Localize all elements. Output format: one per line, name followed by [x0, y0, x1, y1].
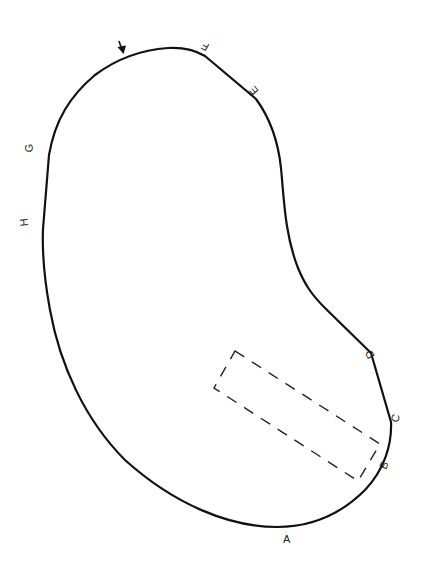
kidney-outline-diagram: A B C D E F G H [0, 0, 437, 572]
dashed-rectangle [214, 351, 380, 481]
label-f: F [199, 40, 211, 54]
label-d: D [362, 348, 376, 361]
label-e: E [247, 84, 261, 97]
down-arrow-icon [118, 41, 127, 54]
label-h: H [17, 218, 30, 227]
label-b: B [377, 459, 391, 470]
label-g: G [22, 143, 35, 153]
shape-outline [43, 48, 391, 527]
label-c: C [388, 413, 402, 424]
label-a: A [283, 533, 291, 545]
